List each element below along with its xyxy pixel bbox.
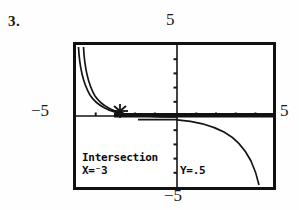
axis-label-xmax: 5 — [280, 101, 289, 121]
readout-title: Intersection — [82, 152, 158, 163]
axis-label-xmin: −5 — [31, 101, 49, 121]
axis-label-ymax: 5 — [166, 10, 175, 30]
readout-x-value: X=⁻3 — [82, 165, 107, 176]
calculator-screen-inner: Intersection X=⁻3 Y=.5 — [76, 45, 273, 187]
problem-number: 3. — [8, 13, 20, 30]
curve-branch-1 — [79, 47, 178, 117]
intersection-cursor-icon — [112, 104, 128, 118]
calculator-screen: Intersection X=⁻3 Y=.5 — [73, 42, 276, 190]
curve-branch-2 — [84, 47, 178, 117]
worksheet-figure: 3. 5 −5 −5 5 — [0, 0, 299, 210]
readout-y-value: Y=.5 — [180, 165, 205, 176]
